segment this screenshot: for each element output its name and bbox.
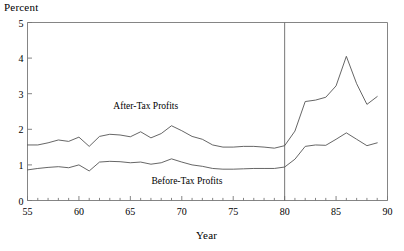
- x-tick-label-65: 65: [125, 206, 135, 217]
- plot-frame: [28, 23, 388, 201]
- x-tick-label-75: 75: [228, 206, 238, 217]
- x-tick-label-90: 90: [383, 206, 393, 217]
- y-tick-label-0: 0: [19, 195, 24, 206]
- y-tick-label-3: 3: [19, 88, 24, 99]
- series-line-after-tax: [28, 56, 378, 148]
- x-tick-label-60: 60: [74, 206, 84, 217]
- x-tick-label-70: 70: [177, 206, 187, 217]
- x-tick-label-80: 80: [280, 206, 290, 217]
- plot-area: [0, 0, 404, 251]
- y-tick-label-1: 1: [19, 159, 24, 170]
- x-tick-label-55: 55: [23, 206, 33, 217]
- x-tick-label-85: 85: [331, 206, 341, 217]
- data-series: [28, 56, 378, 171]
- y-tick-label-4: 4: [19, 53, 24, 64]
- before-tax-label: Before-Tax Profits: [152, 176, 223, 186]
- chart-figure: Percent Year 5560657075808590012345After…: [0, 0, 404, 251]
- after-tax-label: After-Tax Profits: [113, 101, 178, 111]
- y-tick-label-2: 2: [19, 124, 24, 135]
- axis-ticks: [28, 23, 388, 201]
- y-tick-label-5: 5: [19, 17, 24, 28]
